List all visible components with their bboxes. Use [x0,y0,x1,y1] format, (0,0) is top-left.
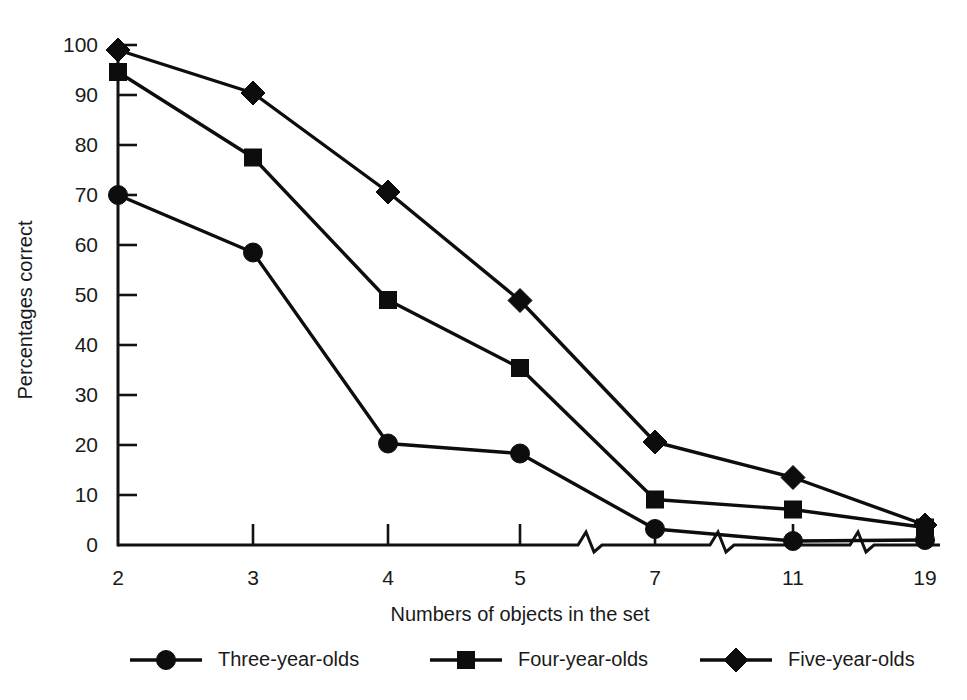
series-layer [106,38,937,551]
square-marker [647,491,664,508]
circle-marker [244,243,263,262]
diamond-marker [781,466,805,490]
circle-marker [511,444,530,463]
y-tick-label: 100 [63,33,98,56]
y-tick-label: 50 [75,283,98,306]
x-tick-label: 5 [514,566,526,589]
legend-label: Three-year-olds [218,648,359,670]
x-tick-label: 19 [913,566,936,589]
circle-marker [157,651,176,670]
legend-item: Four-year-olds [430,648,648,670]
y-tick-label: 90 [75,83,98,106]
diamond-marker [724,648,748,672]
y-tick-label: 70 [75,183,98,206]
circle-marker [646,520,665,539]
legend-item: Three-year-olds [130,648,359,670]
square-marker [110,64,127,81]
legend-item: Five-year-olds [700,648,915,672]
y-axis-ticks [118,45,137,495]
y-axis-tick-labels: 100 90 80 70 60 50 40 30 20 10 0 [63,33,98,556]
square-marker [785,501,802,518]
square-marker [245,149,262,166]
diamond-marker [106,38,130,62]
x-tick-label: 11 [782,566,804,589]
x-tick-label: 4 [382,566,394,589]
legend-label: Four-year-olds [518,648,648,670]
x-tick-label: 3 [247,566,259,589]
y-tick-label: 0 [86,533,98,556]
square-marker [458,652,475,669]
y-tick-label: 60 [75,233,98,256]
chart-legend: Three-year-oldsFour-year-oldsFive-year-o… [130,648,915,672]
circle-marker [379,434,398,453]
diamond-marker [241,81,265,105]
legend-label: Five-year-olds [788,648,915,670]
x-axis-tick-labels: 2 3 4 5 7 11 19 [112,566,937,589]
y-tick-label: 30 [75,383,98,406]
square-marker [512,360,529,377]
y-axis-title: Percentages correct [14,220,36,399]
y-tick-label: 40 [75,333,98,356]
x-axis-title: Numbers of objects in the set [390,603,649,625]
figure-container: Percentages correct 100 90 80 70 60 50 4… [0,0,967,700]
circle-marker [784,532,803,551]
square-marker [380,292,397,309]
circle-marker [109,186,128,205]
y-tick-label: 20 [75,433,98,456]
line-chart: Percentages correct 100 90 80 70 60 50 4… [0,0,967,700]
x-tick-label: 7 [649,566,661,589]
y-tick-label: 80 [75,133,98,156]
y-tick-label: 10 [75,483,98,506]
x-tick-label: 2 [112,566,124,589]
